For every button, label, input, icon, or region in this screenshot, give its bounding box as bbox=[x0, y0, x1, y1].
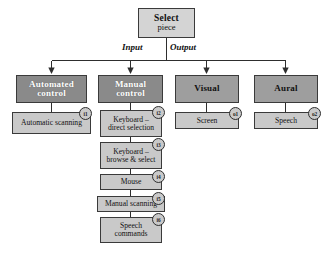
arrowhead-aural bbox=[282, 68, 288, 75]
badge-i6: i6 bbox=[152, 213, 165, 226]
aural-label: Aural bbox=[272, 84, 300, 93]
badge-o1: o1 bbox=[229, 107, 242, 120]
badge-i2: i2 bbox=[152, 106, 165, 119]
diagram-canvas: Select piece Input Output Automated cont… bbox=[0, 0, 331, 257]
branch-label-output: Output bbox=[170, 42, 196, 52]
badge-i3: i3 bbox=[152, 138, 165, 151]
node-select-piece[interactable]: Select piece bbox=[138, 8, 195, 38]
manual-control-line2: control bbox=[116, 88, 145, 98]
arrowheads bbox=[48, 68, 288, 75]
screen-label: Screen bbox=[195, 117, 220, 125]
automatic-scanning-label: Automatic scanning bbox=[19, 119, 84, 127]
branch-label-input: Input bbox=[122, 42, 143, 52]
keyboard-direct-line2: direct selection bbox=[108, 123, 154, 132]
node-manual-control[interactable]: Manual control bbox=[98, 75, 163, 103]
automated-control-line2: control bbox=[37, 88, 66, 98]
arrowhead-automated bbox=[48, 68, 54, 75]
node-aural[interactable]: Aural bbox=[254, 75, 318, 103]
node-visual[interactable]: Visual bbox=[175, 75, 239, 103]
node-automated-control[interactable]: Automated control bbox=[16, 75, 87, 103]
speech-label: Speech bbox=[273, 117, 299, 125]
visual-label: Visual bbox=[192, 84, 221, 93]
badge-o2: o2 bbox=[308, 107, 321, 120]
badge-i5: i5 bbox=[152, 192, 165, 205]
root-subtitle: piece bbox=[154, 23, 179, 32]
badge-i4: i4 bbox=[152, 170, 165, 183]
speech-commands-line2: commands bbox=[115, 229, 148, 238]
arrowhead-manual bbox=[127, 68, 133, 75]
manual-scanning-label: Manual scanning bbox=[103, 200, 159, 208]
keyboard-browse-line2: browse & select bbox=[107, 155, 156, 164]
mouse-label: Mouse bbox=[119, 178, 144, 186]
arrowhead-visual bbox=[203, 68, 209, 75]
badge-i1: i1 bbox=[79, 107, 92, 120]
